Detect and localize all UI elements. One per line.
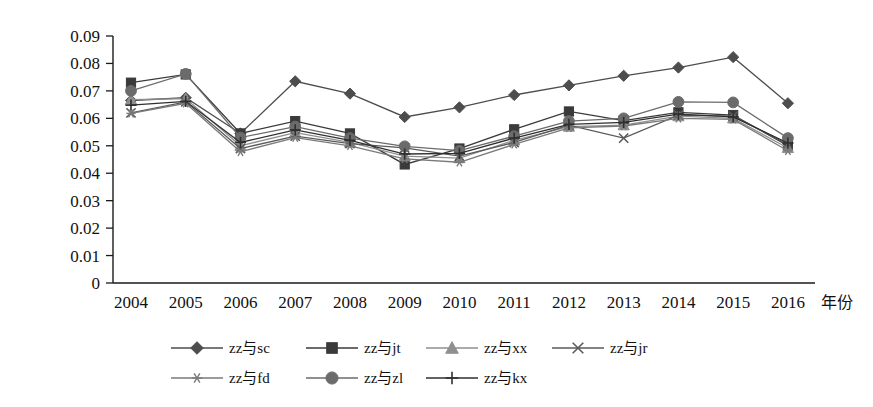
y-tick-label: 0.06 — [70, 109, 100, 128]
legend-label: zz与fd — [229, 370, 270, 386]
y-tick-label: 0 — [92, 274, 101, 293]
x-tick-label: 2004 — [114, 293, 149, 312]
marker-circle — [180, 68, 191, 79]
legend-item-zz与fd[interactable]: zz与fd — [171, 370, 270, 386]
marker-diamond — [673, 62, 684, 73]
x-axis-tick-labels: 2004200520062007200820092010201120122013… — [114, 293, 805, 312]
legend-item-zz与jr[interactable]: zz与jr — [552, 340, 647, 356]
legend-label: zz与zl — [364, 370, 403, 386]
chart-legend: zz与sczz与jtzz与xxzz与jrzz与fdzz与zlzz与kx — [171, 340, 647, 386]
x-tick-label: 2008 — [333, 293, 367, 312]
legend-label: zz与jr — [610, 340, 647, 356]
x-tick-label: 2014 — [661, 293, 696, 312]
legend-item-zz与zl[interactable]: zz与zl — [306, 370, 403, 386]
y-tick-label: 0.07 — [70, 82, 100, 101]
x-tick-label: 2016 — [771, 293, 805, 312]
marker-circle — [326, 372, 338, 384]
x-tick-label: 2006 — [223, 293, 257, 312]
marker-diamond — [509, 89, 520, 100]
marker-diamond — [618, 70, 629, 81]
y-axis-ticks — [106, 36, 113, 283]
chart-canvas: 00.010.020.030.040.050.060.070.080.09 20… — [0, 0, 873, 407]
legend-label: zz与xx — [484, 340, 528, 356]
marker-diamond — [191, 342, 204, 355]
legend-item-zz与sc[interactable]: zz与sc — [171, 340, 270, 356]
y-tick-label: 0.02 — [70, 219, 100, 238]
legend-label: zz与kx — [484, 370, 528, 386]
x-axis-group: 2004200520062007200820092010201120122013… — [113, 283, 853, 312]
y-tick-label: 0.03 — [70, 192, 100, 211]
x-axis-title: 年份 — [821, 294, 853, 311]
marker-diamond — [344, 88, 355, 99]
y-tick-label: 0.05 — [70, 137, 100, 156]
legend-item-zz与jt[interactable]: zz与jt — [306, 340, 401, 356]
legend-label: zz与sc — [229, 340, 270, 356]
y-tick-label: 0.01 — [70, 247, 100, 266]
y-tick-label: 0.04 — [70, 164, 100, 183]
y-axis-tick-labels: 00.010.020.030.040.050.060.070.080.09 — [70, 27, 100, 293]
series-zz与sc — [125, 52, 793, 139]
y-tick-label: 0.08 — [70, 54, 100, 73]
x-tick-label: 2009 — [388, 293, 422, 312]
legend-label: zz与jt — [364, 340, 401, 356]
legend-item-zz与xx[interactable]: zz与xx — [426, 340, 528, 356]
x-tick-label: 2013 — [607, 293, 641, 312]
marker-circle — [728, 97, 739, 108]
y-axis-group: 00.010.020.030.040.050.060.070.080.09 — [70, 27, 113, 293]
series-layer — [125, 52, 793, 170]
x-tick-label: 2015 — [716, 293, 750, 312]
marker-circle — [126, 85, 137, 96]
marker-cross — [619, 133, 628, 142]
marker-square — [564, 107, 573, 116]
x-tick-label: 2012 — [552, 293, 586, 312]
marker-square — [327, 343, 338, 354]
marker-diamond — [563, 80, 574, 91]
marker-plus — [446, 372, 459, 385]
marker-asterisk — [192, 373, 203, 382]
x-tick-label: 2005 — [169, 293, 203, 312]
marker-diamond — [454, 102, 465, 113]
line-chart-figure: 00.010.020.030.040.050.060.070.080.09 20… — [0, 0, 873, 407]
y-tick-label: 0.09 — [70, 27, 100, 46]
legend-item-zz与kx[interactable]: zz与kx — [426, 370, 528, 386]
marker-diamond — [399, 111, 410, 122]
x-tick-label: 2007 — [278, 293, 313, 312]
x-tick-label: 2011 — [497, 293, 530, 312]
x-tick-label: 2010 — [442, 293, 476, 312]
marker-circle — [673, 96, 684, 107]
